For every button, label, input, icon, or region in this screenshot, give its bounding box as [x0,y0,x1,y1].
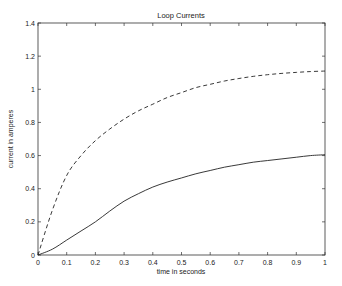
y-tick-label: 0.2 [25,218,35,225]
x-axis-label: time in seconds [157,268,206,275]
plot-area [38,23,325,255]
x-tick-label: 1 [323,259,327,266]
line-chart: Loop Currents 00.10.20.30.40.50.60.70.80… [0,0,342,286]
y-tick-label: 0.8 [25,119,35,126]
y-tick-label: 1.2 [25,53,35,60]
x-tick-label: 0.7 [234,259,244,266]
x-tick-label: 0 [36,259,40,266]
x-tick-label: 0.8 [263,259,273,266]
x-tick-label: 0.9 [291,259,301,266]
x-tick-label: 0.4 [148,259,158,266]
y-tick-label: 1 [31,86,35,93]
x-tick-label: 0.3 [119,259,129,266]
y-tick-label: 0 [31,252,35,259]
x-tick-label: 0.5 [177,259,187,266]
y-axis-label: current in amperes [7,109,15,168]
y-tick-label: 1.4 [25,20,35,27]
y-tick-label: 0.4 [25,185,35,192]
x-tick-label: 0.2 [91,259,101,266]
x-tick-label: 0.6 [205,259,215,266]
x-tick-label: 0.1 [62,259,72,266]
chart-title: Loop Currents [157,11,205,20]
y-tick-label: 0.6 [25,152,35,159]
